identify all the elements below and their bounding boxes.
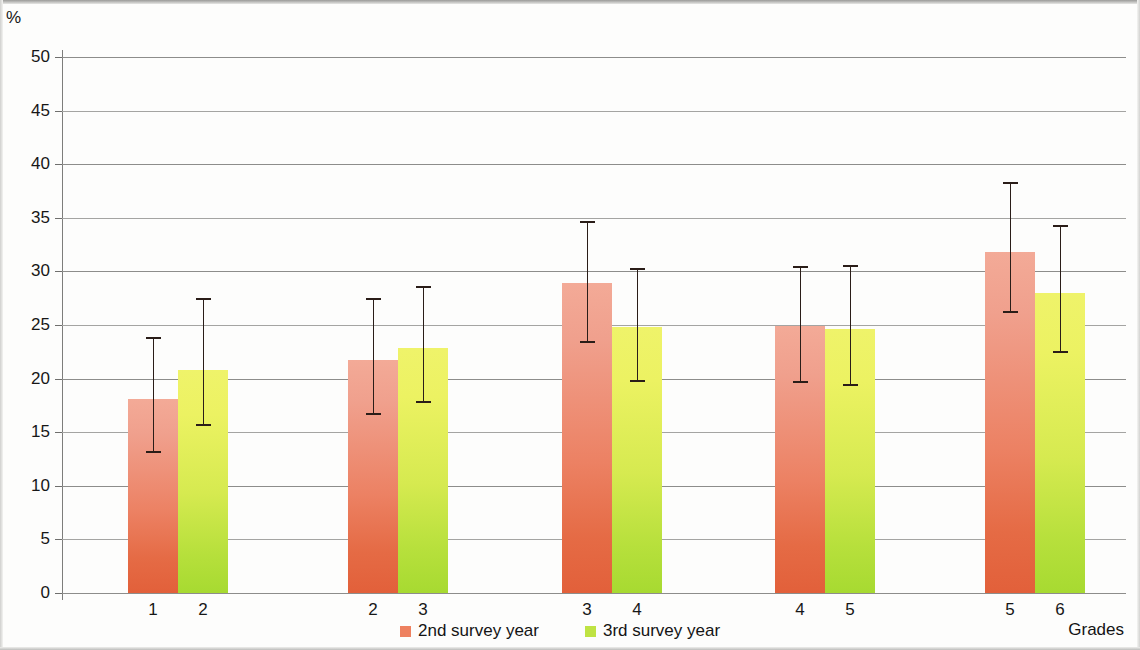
x-axis-tick-label: 4 [612, 600, 662, 620]
error-bar-cap-bottom [416, 401, 431, 403]
error-bar [630, 268, 645, 382]
error-bar-cap-bottom [580, 341, 595, 343]
y-axis-unit-label: % [6, 8, 21, 28]
y-axis-tick-mark [55, 325, 62, 326]
y-axis-tick-mark [55, 164, 62, 165]
x-axis-tick-label: 3 [398, 600, 448, 620]
gridline [62, 593, 1126, 594]
legend-swatch-icon [400, 626, 411, 637]
error-bar-cap-bottom [146, 451, 161, 453]
plot-area [62, 57, 1126, 593]
x-axis-title: Grades [1068, 620, 1124, 640]
gridline [62, 111, 1126, 112]
legend-label: 3rd survey year [603, 621, 720, 641]
y-axis-tick-label: 10 [8, 476, 50, 496]
error-bar-stem [1010, 182, 1012, 313]
y-axis-tick-mark [55, 379, 62, 380]
x-axis-tick-label: 5 [985, 600, 1035, 620]
error-bar [1053, 225, 1068, 353]
y-axis-tick-mark [55, 593, 62, 594]
error-bar-stem [800, 266, 802, 383]
error-bar [580, 221, 595, 343]
scan-edge-left [0, 0, 3, 650]
y-axis-tick-mark [55, 271, 62, 272]
x-axis-tick-label: 2 [178, 600, 228, 620]
error-bar-stem [153, 337, 155, 453]
error-bar-cap-bottom [366, 413, 381, 415]
legend-entry: 3rd survey year [585, 621, 720, 641]
x-axis-tick-label: 6 [1035, 600, 1085, 620]
error-bar-stem [423, 286, 425, 403]
error-bar-cap-bottom [1053, 351, 1068, 353]
legend-swatch-icon [585, 626, 596, 637]
y-axis-tick-label: 20 [8, 369, 50, 389]
error-bar [1003, 182, 1018, 313]
gridline [62, 164, 1126, 165]
x-axis-tick-label: 3 [562, 600, 612, 620]
scan-edge-top [0, 0, 1140, 4]
y-axis-tick-label: 45 [8, 101, 50, 121]
legend-label: 2nd survey year [418, 621, 539, 641]
gridline [62, 57, 1126, 58]
error-bar [146, 337, 161, 453]
error-bar-stem [203, 298, 205, 426]
y-axis-tick-mark [55, 432, 62, 433]
error-bar-stem [637, 268, 639, 382]
error-bar-cap-bottom [843, 384, 858, 386]
error-bar-stem [850, 265, 852, 386]
error-bar-stem [373, 298, 375, 415]
gridline [62, 218, 1126, 219]
y-axis-tick-mark [55, 539, 62, 540]
error-bar-stem [1060, 225, 1062, 353]
error-bar [416, 286, 431, 403]
bar-chart: % 05101520253035404550 1223344556 2nd su… [0, 0, 1140, 650]
y-axis-tick-label: 15 [8, 422, 50, 442]
y-axis-tick-label: 0 [8, 583, 50, 603]
error-bar [793, 266, 808, 383]
legend-entry: 2nd survey year [400, 621, 539, 641]
error-bar-cap-bottom [630, 380, 645, 382]
error-bar-cap-bottom [196, 424, 211, 426]
error-bar [366, 298, 381, 415]
error-bar-cap-bottom [1003, 311, 1018, 313]
y-axis-tick-label: 35 [8, 208, 50, 228]
x-axis-tick-label: 5 [825, 600, 875, 620]
legend: 2nd survey year3rd survey year [400, 621, 720, 641]
error-bar [196, 298, 211, 426]
y-axis-tick-mark [55, 486, 62, 487]
y-axis-tick-mark [55, 57, 62, 58]
y-axis-tick-label: 25 [8, 315, 50, 335]
y-axis-tick-label: 30 [8, 261, 50, 281]
y-axis-tick-label: 5 [8, 529, 50, 549]
x-axis-tick-label: 4 [775, 600, 825, 620]
y-axis-tick-label: 50 [8, 47, 50, 67]
y-axis-tick-mark [55, 218, 62, 219]
error-bar-stem [587, 221, 589, 343]
y-axis-tick-mark [55, 111, 62, 112]
error-bar-cap-bottom [793, 381, 808, 383]
error-bar [843, 265, 858, 386]
x-axis-tick-label: 1 [128, 600, 178, 620]
y-axis-tick-label: 40 [8, 154, 50, 174]
x-axis-tick-label: 2 [348, 600, 398, 620]
